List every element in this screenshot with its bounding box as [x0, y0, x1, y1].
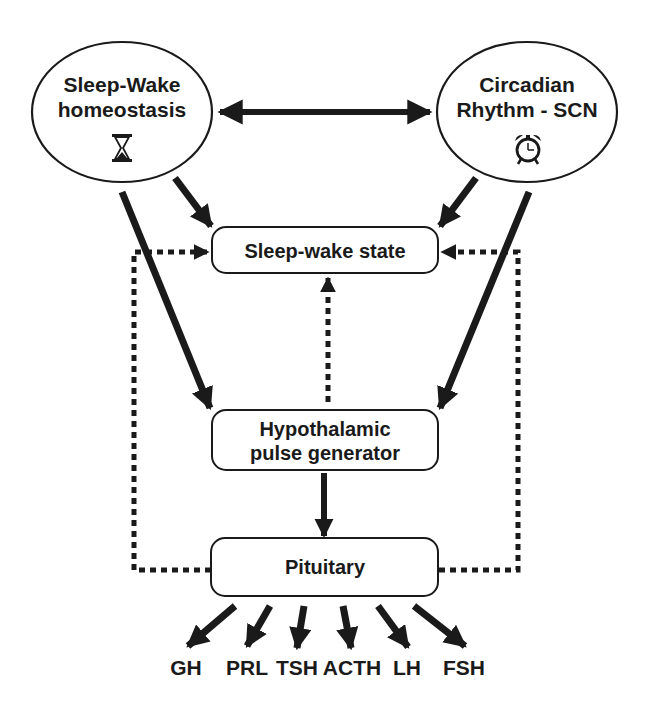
- node-pituitary: Pituitary: [211, 538, 438, 596]
- node-circadian: Circadian Rhythm - SCN: [437, 42, 617, 182]
- output-labels: GH PRL TSH ACTH LH FSH: [170, 656, 485, 679]
- arrow-to-acth: [343, 606, 351, 648]
- pituitary-label: Pituitary: [285, 556, 366, 578]
- output-arrows: [188, 606, 465, 648]
- arrow-to-lh: [378, 606, 408, 647]
- homeostasis-title-line2: homeostasis: [58, 98, 186, 121]
- sleep-wake-state-label: Sleep-wake state: [244, 240, 405, 262]
- arrow-circadian-to-hypothalamic: [440, 192, 529, 408]
- arrow-to-prl: [247, 606, 270, 646]
- output-label-lh: LH: [393, 656, 421, 679]
- sleep-endocrine-diagram: Sleep-Wake homeostasis Circadian Rhythm …: [0, 0, 645, 703]
- feedback-loop-right: [439, 252, 518, 570]
- output-label-acth: ACTH: [323, 656, 381, 679]
- circadian-title-line2: Rhythm - SCN: [456, 98, 597, 121]
- arrow-homeostasis-to-state: [175, 178, 211, 226]
- output-label-gh: GH: [170, 656, 202, 679]
- circadian-title-line1: Circadian: [479, 73, 575, 96]
- output-label-prl: PRL: [226, 656, 268, 679]
- output-label-tsh: TSH: [276, 656, 318, 679]
- arrow-to-gh: [188, 606, 235, 646]
- node-homeostasis: Sleep-Wake homeostasis: [32, 42, 212, 182]
- homeostasis-title-line1: Sleep-Wake: [63, 73, 180, 96]
- node-hypothalamic: Hypothalamic pulse generator: [212, 410, 438, 470]
- hypothalamic-label-line1: Hypothalamic: [259, 418, 390, 440]
- arrow-to-tsh: [297, 606, 304, 648]
- hypothalamic-label-line2: pulse generator: [250, 442, 400, 464]
- node-sleep-wake-state: Sleep-wake state: [212, 227, 438, 273]
- output-label-fsh: FSH: [443, 656, 485, 679]
- feedback-loop-left: [134, 252, 211, 570]
- arrow-circadian-to-state: [440, 178, 476, 226]
- arrow-to-fsh: [414, 606, 465, 646]
